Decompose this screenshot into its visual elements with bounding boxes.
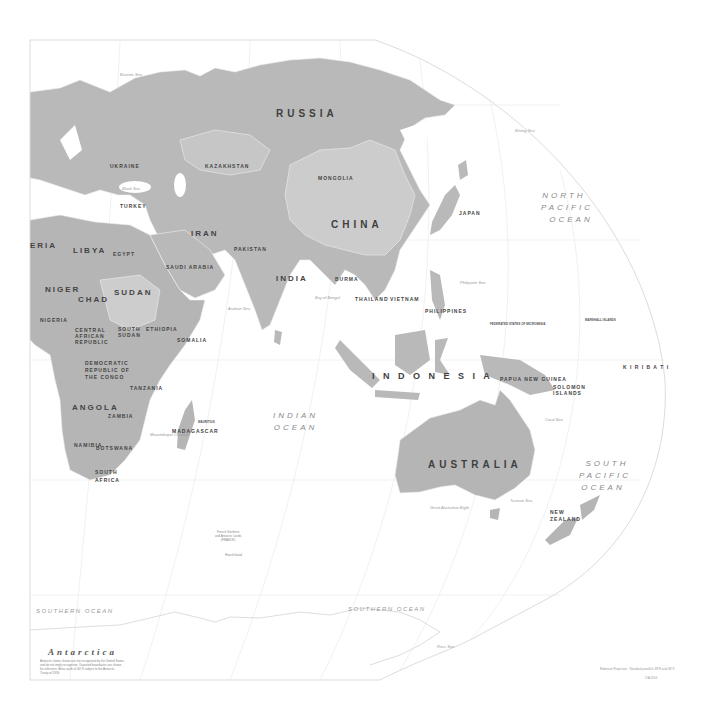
label-philippine-sea: Philippine Sea — [460, 280, 486, 285]
label-ethiopia: ETHIOPIA — [146, 326, 178, 332]
label-algeria: ERIA — [30, 241, 57, 250]
label-car: CENTRAL AFRICAN REPUBLIC — [75, 327, 115, 345]
label-tasman-sea: Tasman Sea — [510, 498, 532, 503]
south-pacific-line1: SOUTH — [583, 458, 631, 470]
label-solomon-islands: SOLOMON ISLANDS — [553, 384, 583, 396]
label-papua-new-guinea: PAPUA NEW GUINEA — [500, 376, 567, 382]
label-indonesia: I N D O N E S I A — [372, 371, 493, 381]
label-angola: ANGOLA — [72, 403, 119, 412]
label-zambia: ZAMBIA — [108, 413, 133, 419]
south-pacific-line3: OCEAN — [575, 482, 631, 494]
north-pacific-line2: PACIFIC — [541, 202, 593, 214]
label-japan: JAPAN — [459, 210, 481, 216]
label-mauritius: MAURITIUS — [198, 420, 215, 424]
label-south-africa: SOUTH AFRICA — [95, 468, 125, 484]
indian-ocean-line2: OCEAN — [273, 422, 318, 434]
label-southern-ocean-left: SOUTHERN OCEAN — [36, 608, 114, 614]
label-kiribati: K I R I B A T I — [623, 364, 669, 370]
french-southern-line3: (FRANCE) — [215, 538, 241, 542]
antarctica-title: Antarctica — [48, 647, 117, 657]
source-credit: CIA 2016 — [645, 676, 657, 680]
label-russia: RUSSIA — [276, 108, 338, 119]
label-chad: CHAD — [78, 295, 109, 304]
label-pakistan: PAKISTAN — [234, 246, 267, 252]
north-pacific-line1: NORTH — [535, 190, 593, 202]
label-barents-sea: Barents Sea — [120, 72, 142, 77]
projection-credit: Robinson Projection · Standard parallels… — [600, 667, 674, 671]
label-niger: NIGER — [45, 285, 80, 294]
label-thailand: THAILAND — [355, 296, 389, 302]
label-somalia: SOMALIA — [177, 337, 207, 343]
label-burma: BURMA — [335, 276, 359, 282]
label-bay-of-bengal: Bay of Bengal — [315, 295, 340, 300]
label-kazakhstan: KAZAKHSTAN — [205, 163, 249, 169]
label-micronesia: FEDERATED STATES OF MICRONESIA — [490, 322, 545, 326]
antarctica-note: Antarctic claims shown are not recognize… — [40, 659, 124, 675]
label-great-australian-bight: Great Australian Bight — [430, 505, 469, 510]
label-bering-sea: Bering Sea — [515, 128, 535, 133]
label-marshall-islands: MARSHALL ISLANDS — [585, 318, 616, 322]
label-tanzania: TANZANIA — [130, 385, 163, 391]
label-australia: AUSTRALIA — [428, 459, 522, 470]
label-sudan: SUDAN — [114, 288, 152, 297]
south-pacific-line2: PACIFIC — [579, 470, 631, 482]
label-botswana: BOTSWANA — [96, 445, 133, 451]
label-drc: DEMOCRATIC REPUBLIC OF THE CONGO — [85, 360, 133, 381]
indian-ocean-line1: INDIAN — [273, 410, 318, 422]
label-new-zealand: NEW ZEALAND — [550, 509, 572, 523]
label-ross-sea: Ross Sea — [437, 644, 454, 649]
label-turkey: TURKEY — [120, 203, 147, 209]
label-southern-ocean-right: SOUTHERN OCEAN — [348, 606, 426, 612]
label-nigeria: NIGERIA — [40, 317, 68, 323]
label-iran: IRAN — [191, 229, 219, 238]
label-arabian-sea: Arabian Sea — [228, 306, 250, 311]
label-mongolia: MONGOLIA — [318, 175, 354, 181]
label-china: CHINA — [331, 219, 383, 230]
label-ukraine: UKRAINE — [110, 163, 140, 169]
antarctica-note-line4: Treaty of 1959. — [40, 671, 124, 675]
caspian-sea — [174, 173, 186, 197]
label-heard-island: Heard Island — [225, 553, 242, 557]
label-south-sudan: SOUTH SUDAN — [118, 326, 148, 338]
label-indian-ocean: INDIAN OCEAN — [273, 410, 318, 434]
label-egypt: EGYPT — [113, 251, 135, 257]
label-vietnam: VIETNAM — [390, 296, 420, 302]
label-south-pacific-ocean: SOUTH PACIFIC OCEAN — [575, 458, 631, 494]
label-libya: LIBYA — [73, 246, 106, 255]
label-north-pacific-ocean: NORTH PACIFIC OCEAN — [535, 190, 593, 226]
label-philippines: PHILIPPINES — [425, 308, 467, 314]
label-india: INDIA — [276, 274, 308, 283]
label-coral-sea: Coral Sea — [545, 417, 563, 422]
label-black-sea: Black Sea — [122, 186, 140, 191]
label-french-southern-lands: French Southern and Antarctic Lands (FRA… — [215, 530, 241, 542]
label-saudi-arabia: SAUDI ARABIA — [166, 264, 214, 270]
north-pacific-line3: OCEAN — [549, 214, 593, 226]
label-mozambique-channel: Mozambique Channel — [150, 432, 189, 437]
